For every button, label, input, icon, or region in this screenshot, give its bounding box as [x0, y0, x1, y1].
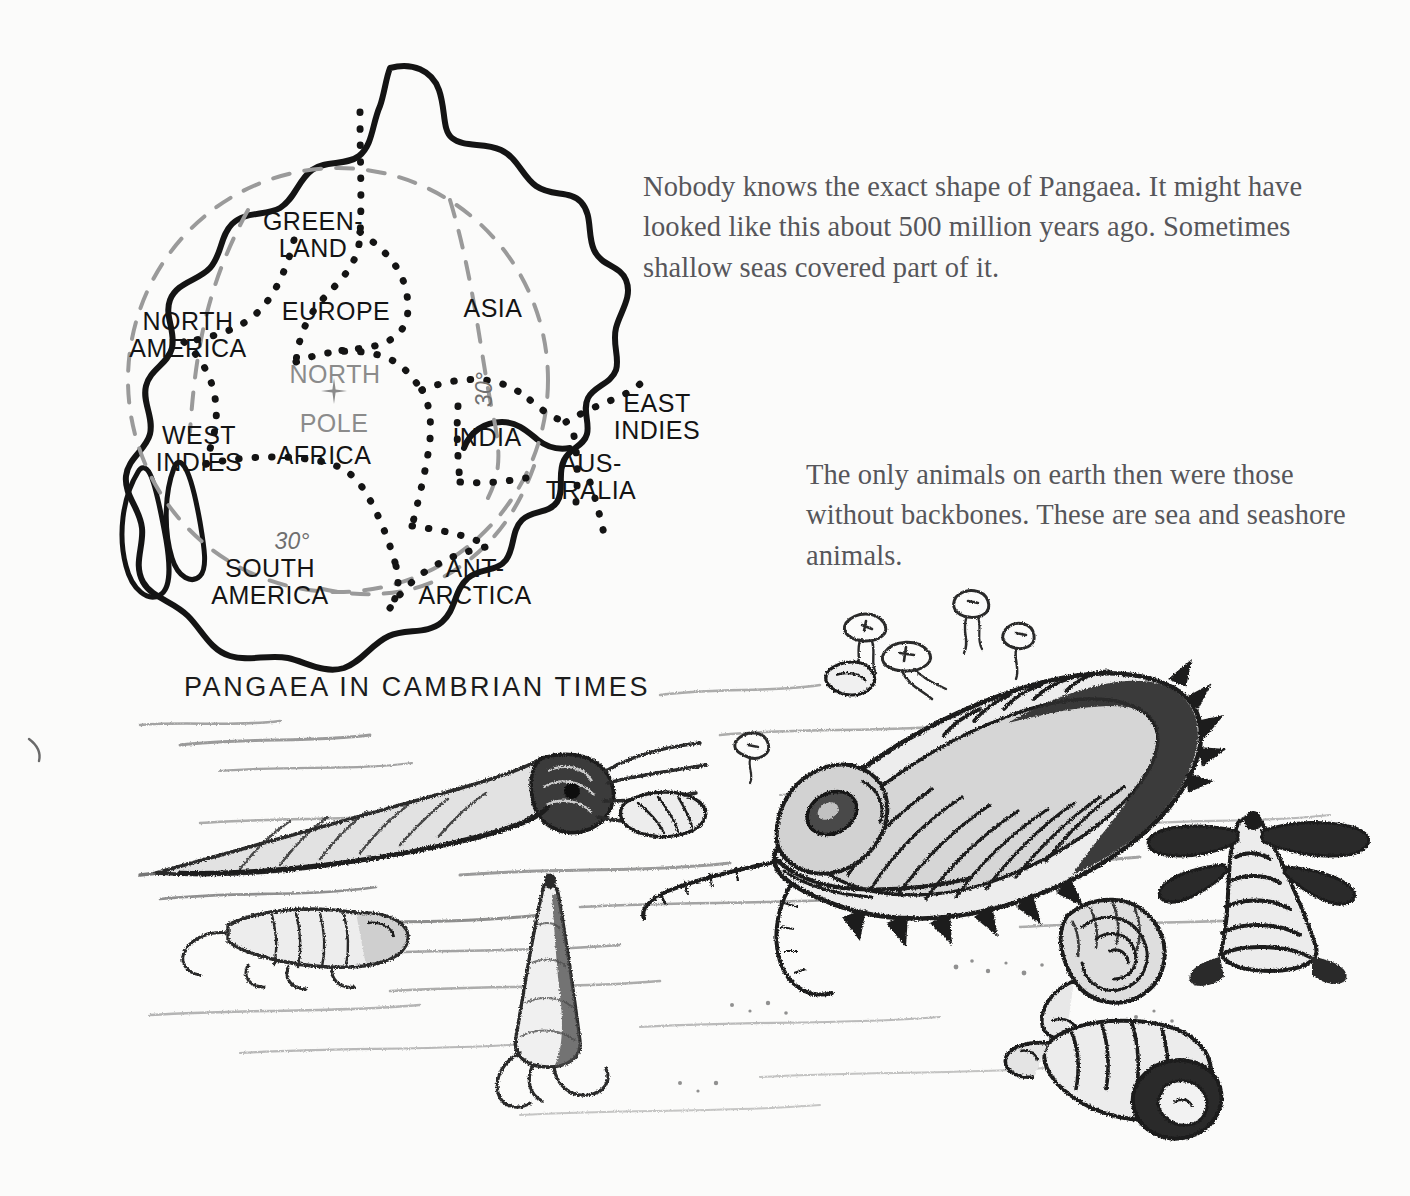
map-latitude-30-south: 30°	[275, 528, 310, 555]
small-shell-fragment	[826, 662, 875, 695]
map-latitude-30-asia: 30°	[471, 372, 498, 407]
map-label-west-indies: WEST INDIES	[156, 422, 242, 476]
map-label-india: INDIA	[452, 424, 521, 451]
paragraph-invertebrates: The only animals on earth then were thos…	[806, 455, 1354, 576]
map-label-east-indies: EAST INDIES	[614, 390, 700, 444]
map-label-europe: EUROPE	[282, 298, 391, 325]
small-trilobite	[183, 909, 408, 989]
jellyfish-3	[954, 591, 989, 653]
island-sliver-inner	[166, 462, 204, 579]
map-label-africa: AFRICA	[277, 442, 372, 469]
map-label-north-pole-pole: POLE	[300, 410, 369, 437]
jellyfish-4	[1003, 623, 1035, 679]
map-label-north-america: NORTH AMERICA	[129, 308, 246, 362]
jellyfish-2	[882, 642, 946, 699]
paragraph-pangaea-shape: Nobody knows the exact shape of Pangaea.…	[643, 167, 1305, 288]
winged-cone-shell	[1148, 811, 1368, 986]
cambrian-seafloor-svg	[120, 575, 1390, 1175]
map-label-north-pole-north: NORTH	[290, 361, 381, 388]
cambrian-seafloor-illustration	[120, 575, 1390, 1175]
brachiopod-shell	[621, 792, 706, 837]
conical-shell	[497, 874, 608, 1108]
map-label-asia: ASIA	[464, 295, 523, 322]
turret-shell	[1005, 1021, 1221, 1139]
map-label-australia: AUS- TRALIA	[546, 450, 637, 504]
jellyfish-5	[735, 733, 769, 783]
stray-pencil-mark	[25, 735, 55, 765]
map-label-greenland: GREEN- LAND	[263, 208, 363, 262]
coiled-gastropod-shell	[1042, 900, 1165, 1038]
page-root: GREEN- LAND NORTH AMERICA EUROPE ASIA NO…	[0, 0, 1410, 1196]
